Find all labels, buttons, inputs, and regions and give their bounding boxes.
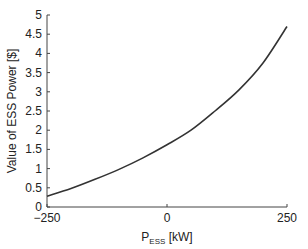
y-tick-label: 4 — [35, 46, 42, 60]
y-tick-label: 0.5 — [25, 181, 42, 195]
y-tick-label: 2.5 — [25, 104, 42, 118]
y-tick-label: 5 — [35, 8, 42, 22]
y-tick-label: 3.5 — [25, 66, 42, 80]
y-tick-label: 1 — [35, 162, 42, 176]
x-axis-label: PESS [kW] — [141, 230, 192, 246]
y-tick-label: 1.5 — [25, 142, 42, 156]
y-tick-label: 2 — [35, 123, 42, 137]
y-tick-label: 4.5 — [25, 27, 42, 41]
series-line — [47, 27, 287, 197]
y-tick-label: 3 — [35, 85, 42, 99]
x-axis-label-main: P — [141, 230, 149, 244]
y-axis-label: Value of ESS Power [$] — [5, 49, 19, 174]
plot-area: 00.511.522.533.544.55−2500250 — [25, 8, 297, 225]
x-axis-label-unit: [kW] — [165, 230, 192, 244]
x-tick-label: 0 — [164, 211, 171, 225]
x-tick-label: 250 — [277, 211, 297, 225]
chart: 00.511.522.533.544.55−2500250 Value of E… — [0, 0, 308, 249]
x-axis-label-sub: ESS — [149, 237, 165, 246]
x-tick-label: −250 — [33, 211, 60, 225]
